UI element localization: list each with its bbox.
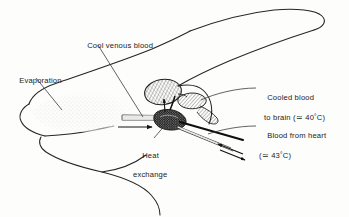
approx-equal-icon: ≃	[262, 151, 269, 160]
blood-heart-temp-unit: C)	[283, 151, 291, 160]
label-blood-heart-line2: (≃ 43°C)	[258, 150, 326, 161]
label-blood-heart-line1: Blood from heart	[267, 131, 326, 140]
label-heat-exchange: Heat exchange	[133, 141, 167, 199]
carotid-rete-heat-exchanger	[154, 109, 186, 130]
label-cool-venous-blood: Cool venous blood	[78, 31, 153, 60]
blood-heart-temp-value: 43	[269, 151, 280, 160]
label-heat-exchange-line1: Heat	[142, 151, 159, 160]
label-blood-from-heart: Blood from heart (≃ 43°C)	[258, 121, 326, 180]
nasal-evaporation-zone	[33, 92, 139, 132]
selective-brain-cooling-figure: Evaporation Cool venous blood Heat excha…	[0, 0, 349, 217]
label-cooled-blood-line1: Cooled blood	[267, 93, 314, 102]
label-evaporation: Evaporation	[10, 66, 62, 95]
label-heat-exchange-line2: exchange	[133, 170, 167, 180]
brain-hatched-oval	[143, 77, 183, 107]
venous-vessel-hollow-tube	[122, 115, 158, 120]
